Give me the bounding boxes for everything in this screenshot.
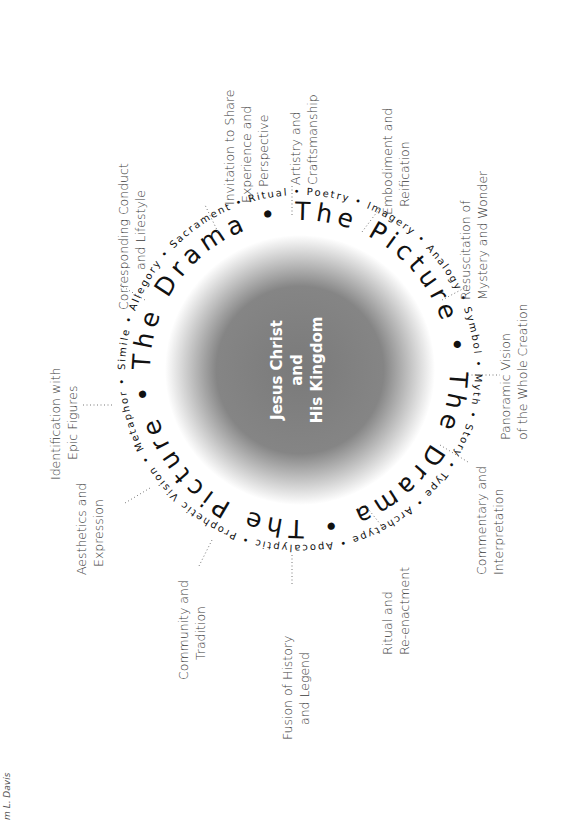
diagram-canvas: Jesus Christ and His Kingdom The Drama •… — [0, 0, 572, 820]
label-panoramic-line1: Panoramic Vision — [498, 333, 513, 440]
label-fusion-line2: and Legend — [297, 652, 312, 725]
label-panoramic-line2: of the Whole Creation — [515, 304, 530, 440]
label-panoramic: Panoramic Vision of the Whole Creation — [498, 304, 530, 440]
label-identification: Identification with Epic Figures — [48, 368, 80, 480]
label-invitation: Invitation to Share Experience and Persp… — [222, 89, 271, 205]
label-identification-line1: Identification with — [48, 368, 63, 480]
label-resuscitation: Resuscitation of Mystery and Wonder — [458, 170, 490, 300]
credit-text: m L. Davis — [2, 772, 12, 820]
label-artistry-line1: Artistry and — [288, 111, 303, 185]
label-resuscitation-line2: Mystery and Wonder — [475, 170, 490, 300]
label-commentary: Commentary and Interpretation — [474, 466, 506, 575]
connector-aesthetics — [125, 488, 150, 503]
label-aesthetics-line2: Expression — [91, 499, 106, 567]
label-identification-line2: Epic Figures — [65, 386, 80, 460]
label-invitation-line1: Invitation to Share — [222, 89, 237, 205]
label-fusion: Fusion of History and Legend — [280, 636, 312, 740]
label-embodiment-line1: Embodiment and — [380, 108, 395, 215]
label-resuscitation-line1: Resuscitation of — [458, 200, 473, 300]
label-community: Community and Tradition — [176, 580, 208, 680]
connector-community — [198, 540, 212, 568]
credit: m L. Davis — [2, 772, 12, 820]
center-line-1: Jesus Christ — [268, 320, 286, 421]
label-corresponding-line1: Corresponding Conduct — [116, 163, 131, 310]
label-ritual-line2: Re-enactment — [397, 567, 412, 655]
label-artistry-line2: Craftsmanship — [305, 94, 320, 185]
label-ritual-line1: Ritual and — [380, 591, 395, 655]
center-line-3: His Kingdom — [308, 317, 326, 424]
label-commentary-line2: Interpretation — [491, 489, 506, 575]
label-corresponding: Corresponding Conduct and Lifestyle — [116, 163, 148, 310]
label-community-line1: Community and — [176, 580, 191, 680]
label-corresponding-line2: and Lifestyle — [133, 190, 148, 270]
label-aesthetics: Aesthetics and Expression — [74, 483, 106, 575]
diagram-rotated-group: Jesus Christ and His Kingdom The Drama •… — [116, 186, 484, 554]
label-invitation-line3: Perspective — [256, 115, 271, 187]
label-embodiment-line2: Reification — [397, 141, 412, 207]
label-invitation-line2: Experience and — [239, 106, 254, 203]
label-commentary-line1: Commentary and — [474, 466, 489, 575]
label-embodiment: Embodiment and Reification — [380, 108, 412, 215]
center-line-2: and — [288, 354, 306, 386]
label-community-line2: Tradition — [193, 606, 208, 660]
label-fusion-line1: Fusion of History — [280, 636, 295, 740]
label-aesthetics-line1: Aesthetics and — [74, 483, 89, 575]
label-artistry: Artistry and Craftsmanship — [288, 94, 320, 185]
label-ritual: Ritual and Re-enactment — [380, 567, 412, 655]
